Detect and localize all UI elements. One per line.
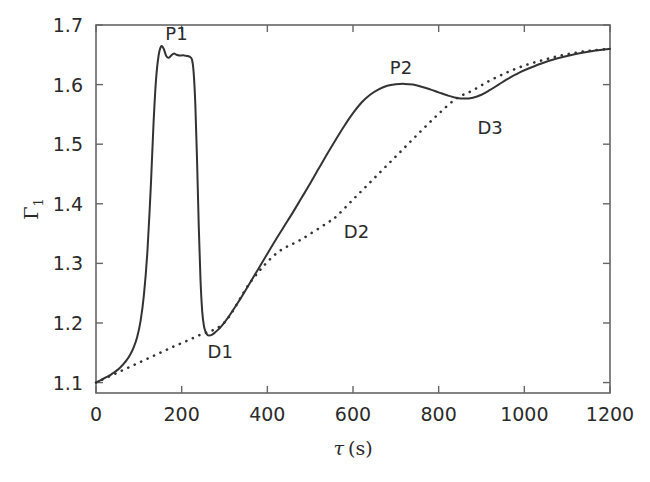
x-tick-label: 400 — [249, 403, 285, 425]
x-tick-label: 800 — [421, 403, 457, 425]
data-series-layer — [96, 46, 610, 382]
y-tick-label: 1.3 — [53, 252, 83, 274]
annotation-d1: D1 — [208, 341, 233, 362]
series-line-baseline — [96, 49, 610, 383]
plot-border — [96, 25, 610, 393]
x-axis-ticks — [96, 25, 610, 393]
x-tick-label: 1200 — [586, 403, 634, 425]
y-tick-label: 1.4 — [53, 193, 83, 215]
x-axis-title: τ(s) — [333, 437, 372, 459]
y-tick-label: 1.5 — [53, 133, 83, 155]
x-tick-label: 600 — [335, 403, 371, 425]
annotation-p1: P1 — [165, 23, 187, 44]
annotation-p2: P2 — [390, 57, 412, 78]
chart-figure: 020040060080010001200 1.11.21.31.41.51.6… — [0, 0, 650, 482]
plot-frame — [96, 25, 610, 393]
y-tick-label: 1.6 — [53, 74, 83, 96]
line-chart: 020040060080010001200 1.11.21.31.41.51.6… — [0, 0, 650, 482]
annotation-d2: D2 — [344, 221, 369, 242]
x-tick-label: 0 — [90, 403, 102, 425]
x-tick-label: 1000 — [500, 403, 548, 425]
x-axis-tick-labels: 020040060080010001200 — [90, 403, 634, 425]
y-axis-ticks — [96, 25, 610, 383]
annotation-d3: D3 — [477, 117, 502, 138]
y-axis-tick-labels: 1.11.21.31.41.51.61.7 — [53, 14, 83, 394]
x-tick-label: 200 — [164, 403, 200, 425]
series-line-measured — [96, 46, 610, 382]
y-axis-title: Γ1 — [20, 198, 46, 219]
annotation-labels: P1D1D2P2D3 — [165, 23, 502, 362]
y-tick-label: 1.7 — [53, 14, 83, 36]
y-tick-label: 1.2 — [53, 312, 83, 334]
y-tick-label: 1.1 — [53, 372, 83, 394]
